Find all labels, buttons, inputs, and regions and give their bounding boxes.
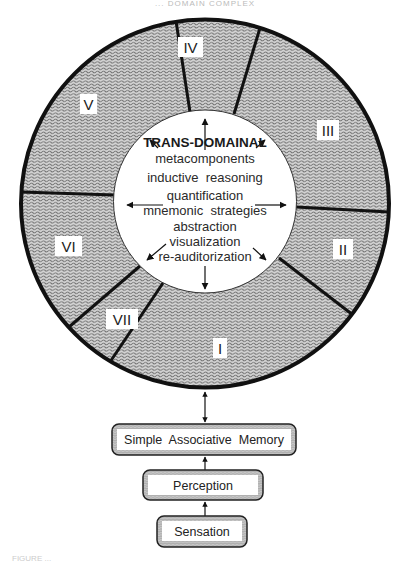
sector-v: V — [80, 94, 97, 114]
core-item: abstraction — [173, 219, 237, 234]
core-item: metacomponents — [155, 151, 255, 166]
sector-label: VI — [61, 238, 75, 255]
core-item: quantification — [167, 188, 244, 203]
sector-label: IV — [183, 39, 197, 56]
sector-vii: VII — [106, 309, 138, 329]
box-label: Simple Associative Memory — [124, 433, 285, 447]
sector-ii: II — [333, 239, 353, 259]
sector-label: VII — [113, 311, 131, 328]
sector-vi: VI — [55, 236, 82, 256]
box-sensation: Sensation — [157, 516, 247, 547]
sector-i: I — [213, 338, 227, 358]
sector-iv: IV — [178, 37, 203, 57]
figure-caption: FIGURE ... — [12, 554, 51, 562]
sector-label: V — [83, 96, 93, 113]
core-item: inductive reasoning — [147, 170, 263, 185]
box-simple-associative-memory: Simple Associative Memory — [112, 424, 296, 455]
core-title: TRANS-DOMAINAL — [143, 135, 267, 150]
box-perception: Perception — [143, 470, 263, 500]
core-item: re-auditorization — [158, 249, 251, 264]
core-item: visualization — [170, 234, 241, 249]
sector-label: II — [339, 241, 347, 258]
sector-label: I — [218, 340, 222, 357]
page-header: ... DOMAIN COMPLEX — [155, 0, 255, 8]
sector-iii: III — [317, 120, 339, 140]
core-item: mnemonic strategies — [143, 203, 267, 218]
trans-domainal-core: TRANS-DOMAINAL metacomponents inductive … — [114, 110, 297, 293]
box-label: Sensation — [174, 525, 230, 539]
domain-diagram: ... DOMAIN COMPLEX IV V III II — [0, 0, 405, 562]
sector-label: III — [322, 122, 335, 139]
box-label: Perception — [173, 479, 233, 493]
